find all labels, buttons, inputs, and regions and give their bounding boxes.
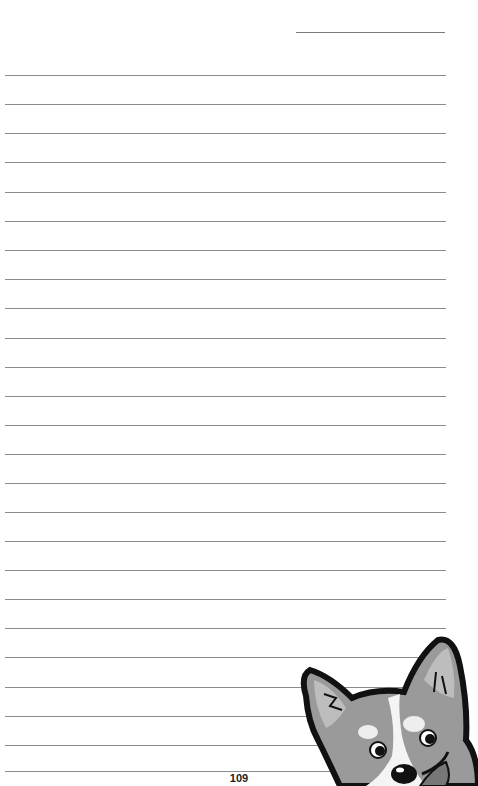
ruled-line <box>5 570 446 571</box>
ruled-line <box>5 250 446 251</box>
ruled-line <box>5 483 446 484</box>
ruled-line <box>5 133 446 134</box>
ruled-line <box>5 279 446 280</box>
page-number: 109 <box>0 772 478 784</box>
ruled-line <box>5 221 446 222</box>
notebook-page: 109 <box>0 0 478 786</box>
ruled-line <box>5 541 446 542</box>
ruled-line <box>5 396 446 397</box>
ruled-line <box>5 628 446 629</box>
ruled-line <box>5 512 446 513</box>
date-line <box>296 32 445 33</box>
ruled-line <box>5 599 446 600</box>
ruled-line <box>5 308 446 309</box>
ruled-line <box>5 162 446 163</box>
ruled-line <box>5 454 446 455</box>
ruled-line <box>5 75 446 76</box>
ruled-line <box>5 367 446 368</box>
ruled-line <box>5 425 446 426</box>
ruled-line <box>5 338 446 339</box>
corgi-illustration-icon <box>296 636 478 786</box>
ruled-line <box>5 192 446 193</box>
ruled-line <box>5 104 446 105</box>
